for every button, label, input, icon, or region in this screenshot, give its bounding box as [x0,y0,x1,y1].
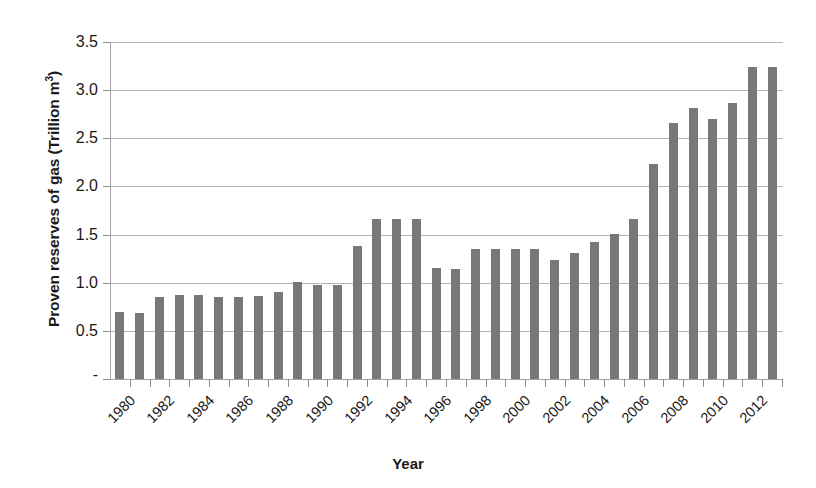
x-axis-tick-mark [327,379,328,387]
bars-layer [110,42,782,379]
x-axis-tick-mark [644,379,645,387]
y-axis-tick-label: 3.5 [38,34,98,50]
bar [412,219,421,379]
bar [451,269,460,379]
y-axis-title-exponent: 3 [44,76,55,81]
bar [590,242,599,379]
y-axis-tick-mark [103,90,110,91]
x-axis-tick-label: 2004 [563,392,612,441]
x-axis-tick-label: 2008 [642,392,691,441]
bar [669,123,678,379]
bar [530,249,539,379]
y-axis-tick-label: 0.5 [38,323,98,339]
bar [689,108,698,379]
x-axis-tick-label: 1990 [286,392,335,441]
bar [610,234,619,379]
x-axis-tick-label: 2010 [682,392,731,441]
x-axis-tick-mark [782,379,783,387]
x-axis-tick-mark [169,379,170,387]
x-axis-tick-mark [367,379,368,387]
y-axis-title-close: ) [45,71,62,76]
bar-chart: Proven reserves of gas (Trillion m3) -0.… [0,0,816,488]
x-axis-tick-label: 1998 [444,392,493,441]
bar [392,219,401,379]
bar [175,295,184,379]
x-axis-tick-mark [308,379,309,387]
y-axis-tick-label: 2.0 [38,178,98,194]
x-axis-tick-label: 1988 [247,392,296,441]
y-axis-tick-label: 2.5 [38,130,98,146]
bar [254,296,263,379]
bar [274,292,283,379]
bar [194,295,203,379]
bar [432,268,441,379]
x-axis-tick-mark [466,379,467,387]
y-axis-tick-label: - [38,367,98,383]
y-axis-tick-mark [103,283,110,284]
x-axis-tick-label: 1982 [128,392,177,441]
x-axis-tick-mark [683,379,684,387]
x-axis-tick-label: 2012 [721,392,770,441]
x-axis-tick-mark [189,379,190,387]
x-axis-tick-label: 2006 [603,392,652,441]
y-axis-tick-mark [103,138,110,139]
bar [629,219,638,379]
x-axis-tick-mark [703,379,704,387]
bar [649,164,658,379]
x-axis-tick-label: 2002 [524,392,573,441]
x-axis-tick-mark [248,379,249,387]
bar [234,297,243,379]
x-axis-tick-label: 1986 [207,392,256,441]
x-axis-tick-mark [486,379,487,387]
y-axis-tick-label: 1.5 [38,227,98,243]
x-axis-tick-mark [505,379,506,387]
x-axis-tick-mark [150,379,151,387]
bar [570,253,579,379]
x-axis-tick-mark [347,379,348,387]
bar [550,260,559,379]
y-axis-tick-mark [103,235,110,236]
x-axis-tick-mark [545,379,546,387]
bar [353,246,362,379]
x-axis-tick-mark [525,379,526,387]
y-axis-tick-mark [103,379,110,380]
x-axis-tick-mark [604,379,605,387]
y-axis-tick-label: 1.0 [38,275,98,291]
y-axis-tick-mark [103,186,110,187]
bar [155,297,164,379]
x-axis-tick-mark [387,379,388,387]
x-axis-tick-mark [406,379,407,387]
x-axis-tick-mark [624,379,625,387]
x-axis-tick-mark [742,379,743,387]
bar [135,313,144,379]
x-axis-tick-mark [426,379,427,387]
x-axis-tick-mark [762,379,763,387]
bar [491,249,500,379]
x-axis-tick-mark [130,379,131,387]
bar [728,103,737,379]
x-axis-tick-label: 1994 [365,392,414,441]
bar [313,285,322,379]
x-axis-tick-mark [209,379,210,387]
bar [748,67,757,379]
x-axis-tick-mark [288,379,289,387]
bar [511,249,520,379]
x-axis-tick-mark [663,379,664,387]
bar [768,67,777,379]
x-axis-tick-mark [584,379,585,387]
bar [471,249,480,379]
y-axis-tick-mark [103,331,110,332]
x-axis-tick-mark [268,379,269,387]
y-axis-tick-label: 3.0 [38,82,98,98]
y-axis-tick-mark [103,42,110,43]
x-axis-tick-mark [565,379,566,387]
x-axis-tick-mark [446,379,447,387]
bar [115,312,124,379]
x-axis-tick-mark [229,379,230,387]
bar [214,297,223,379]
bar [708,119,717,379]
bar [293,282,302,379]
bar [372,219,381,379]
x-axis-title: Year [0,455,816,472]
x-axis-tick-mark [723,379,724,387]
